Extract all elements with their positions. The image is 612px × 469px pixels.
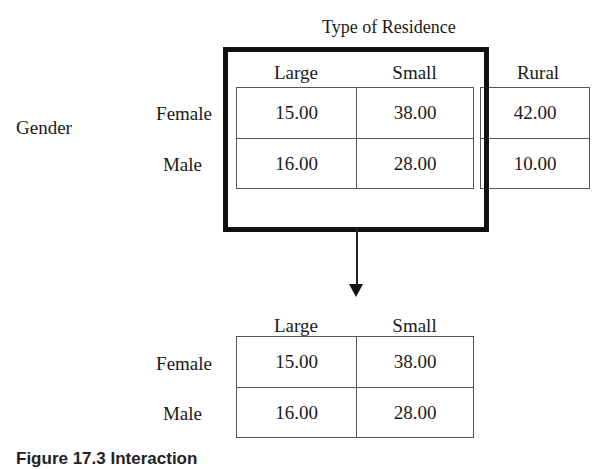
bottom-row-label-male: Male — [112, 404, 202, 423]
bottom-col-header-small: Small — [356, 316, 473, 335]
arrow-down-icon — [349, 284, 363, 297]
top-col-header-rural: Rural — [487, 63, 589, 82]
top-row-label-female: Female — [122, 104, 212, 123]
factor-label-gender: Gender — [16, 118, 72, 137]
bottom-cell-male-small: 28.00 — [356, 387, 474, 438]
bottom-cell-female-large: 15.00 — [236, 336, 357, 388]
diagram-title: Type of Residence — [322, 18, 456, 36]
top-cell-female-rural: 42.00 — [480, 87, 590, 139]
bottom-row-label-female: Female — [122, 354, 212, 373]
top-cell-male-rural: 10.00 — [480, 138, 590, 189]
bottom-cell-male-large: 16.00 — [236, 387, 357, 438]
arrow-shaft — [356, 227, 358, 287]
figure-caption: Figure 17.3 Interaction — [16, 449, 197, 469]
selection-highlight-box — [223, 47, 489, 232]
bottom-col-header-large: Large — [236, 316, 356, 335]
bottom-cell-female-small: 38.00 — [356, 336, 474, 388]
top-row-label-male: Male — [112, 155, 202, 174]
